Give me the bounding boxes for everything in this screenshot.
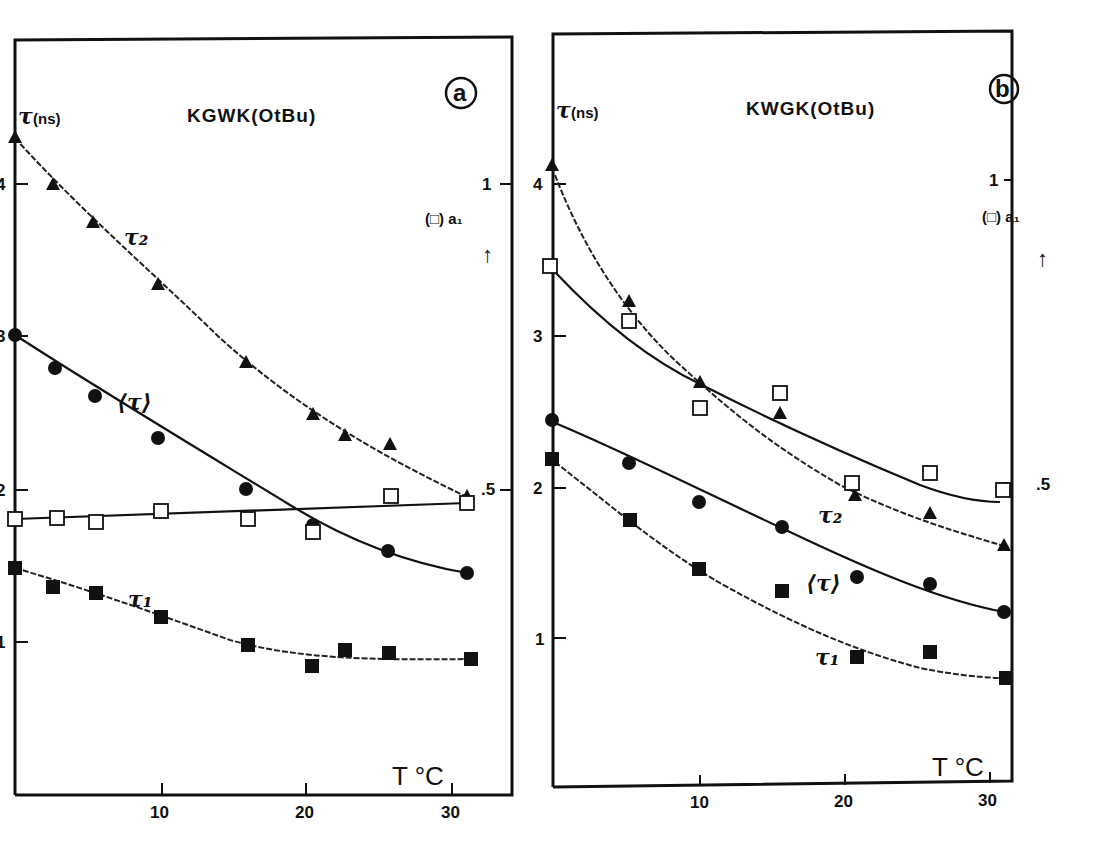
panel-a-a1-markers bbox=[8, 489, 474, 539]
panel-a-y-axis-label: τ bbox=[18, 103, 33, 129]
panel-a-x-axis-label: T °C bbox=[392, 761, 444, 791]
panel-a-title: KGWK(OtBu) bbox=[187, 105, 316, 126]
x-tick-label: 30 bbox=[978, 791, 997, 810]
panel-b-tau2-label: τ₂ bbox=[818, 502, 842, 528]
panel-a-label: a bbox=[453, 79, 467, 106]
panel-a-tau-mean-label: ⟨τ⟩ bbox=[117, 389, 152, 415]
panel-a: 4 3 2 1 1 .5 10 20 30 τ (ns) KGWK(OtBu) … bbox=[0, 37, 512, 822]
y-tick-label: 4 bbox=[0, 175, 6, 194]
y-tick-label: 4 bbox=[533, 175, 543, 194]
panel-b-x-axis-label: T °C bbox=[932, 752, 984, 782]
panel-a-tau2-curve bbox=[15, 138, 467, 497]
y-tick-label: 2 bbox=[0, 481, 5, 500]
panel-b-label: b bbox=[995, 75, 1010, 102]
y-tick-label: 1 bbox=[0, 633, 5, 652]
panel-a-y2-axis-label: (□) a₁ bbox=[425, 210, 463, 227]
panel-a-tau-mean-curve bbox=[15, 335, 467, 573]
panel-b-y-axis-label: τ bbox=[556, 97, 571, 123]
y-tick-label: 3 bbox=[533, 327, 542, 346]
y2-tick-label: .5 bbox=[1036, 475, 1050, 494]
panel-b-tau1-curve bbox=[555, 462, 1006, 678]
panel-b-tau1-label: τ₁ bbox=[815, 644, 839, 670]
y2-tick-label: .5 bbox=[481, 480, 495, 499]
panel-a-tau1-label: τ₁ bbox=[128, 586, 152, 612]
panel-b-a1-markers bbox=[543, 259, 1010, 497]
y2-tick-label: 1 bbox=[989, 171, 998, 190]
y-tick-label: 2 bbox=[533, 479, 542, 498]
panel-a-tau2-label: τ₂ bbox=[124, 224, 148, 250]
panel-b-tau-mean-label: ⟨τ⟩ bbox=[806, 570, 841, 596]
panel-a-y2-ticks: 1 .5 bbox=[481, 175, 512, 499]
y-tick-label: 1 bbox=[535, 630, 544, 649]
panel-b: 4 3 2 1 1 .5 10 20 30 τ (ns) KWGK(OtBu) … bbox=[533, 31, 1050, 812]
panel-a-frame bbox=[15, 37, 512, 795]
panel-b-tau1-markers bbox=[545, 452, 1013, 685]
x-tick-label: 10 bbox=[690, 793, 709, 812]
panel-a-tau2-markers bbox=[8, 130, 474, 502]
panel-b-y-ticks: 4 3 2 1 bbox=[533, 175, 566, 649]
x-tick-label: 20 bbox=[295, 803, 314, 822]
panel-b-y2-axis-label: (□) a₁ bbox=[982, 208, 1020, 225]
panel-b-title: KWGK(OtBu) bbox=[746, 98, 875, 119]
x-tick-label: 20 bbox=[834, 792, 853, 811]
panel-b-frame bbox=[553, 31, 1012, 787]
x-tick-label: 30 bbox=[441, 803, 460, 822]
x-tick-label: 10 bbox=[150, 803, 169, 822]
figure: 4 3 2 1 1 .5 10 20 30 τ (ns) KGWK(OtBu) … bbox=[0, 0, 1117, 866]
panel-a-y-axis-unit: (ns) bbox=[33, 110, 61, 127]
arrow-up-icon: ↑ bbox=[1037, 246, 1048, 271]
y-tick-label: 3 bbox=[0, 327, 5, 346]
arrow-up-icon: ↑ bbox=[482, 242, 493, 267]
panel-a-tau1-markers bbox=[8, 561, 478, 673]
y2-tick-label: 1 bbox=[482, 175, 491, 194]
panel-b-y-axis-unit: (ns) bbox=[571, 104, 599, 121]
